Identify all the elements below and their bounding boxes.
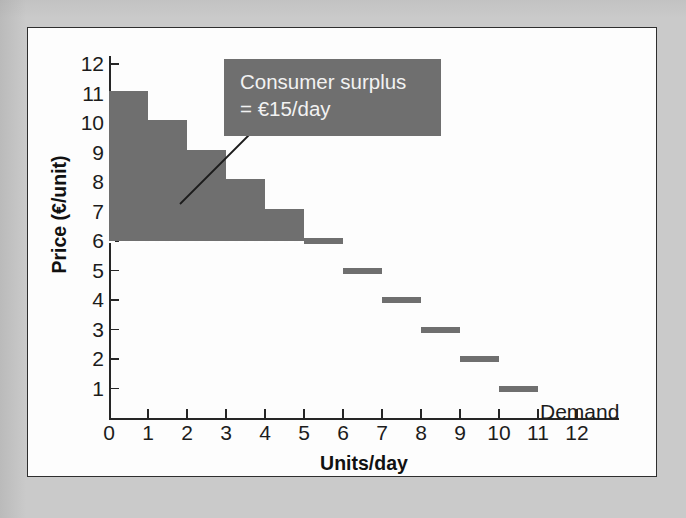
demand-step-unit-3	[187, 150, 226, 156]
x-tick-4	[264, 409, 266, 418]
x-tick-label-9: 9	[440, 422, 480, 443]
demand-step-unit-1	[109, 91, 148, 97]
x-tick-11	[537, 409, 539, 418]
x-tick-1	[147, 409, 149, 418]
y-tick-label-2: 2	[60, 348, 104, 369]
x-tick-7	[381, 409, 383, 418]
y-tick-label-3: 3	[60, 319, 104, 340]
surplus-column-unit-1	[109, 91, 148, 242]
y-tick-label-10: 10	[60, 112, 104, 133]
chart-card: Price (€/unit) Units/day 121110987654321…	[27, 27, 657, 477]
x-tick-5	[303, 409, 305, 418]
x-tick-label-10: 10	[479, 422, 519, 443]
demand-step-unit-6	[304, 238, 343, 244]
demand-step-unit-8	[382, 297, 421, 303]
x-tick-label-6: 6	[323, 422, 363, 443]
annotation-line-2: = €15/day	[240, 95, 441, 122]
plot-area: Price (€/unit) Units/day 121110987654321…	[28, 28, 658, 478]
consumer-surplus-annotation: Consumer surplus = €15/day	[224, 59, 441, 136]
x-tick-label-3: 3	[206, 422, 246, 443]
x-tick-label-0: 0	[89, 422, 129, 443]
y-tick-12	[110, 63, 119, 65]
y-tick-label-9: 9	[60, 142, 104, 163]
y-tick-2	[110, 358, 119, 360]
x-tick-6	[342, 409, 344, 418]
demand-step-unit-9	[421, 327, 460, 333]
x-tick-label-1: 1	[128, 422, 168, 443]
x-tick-8	[420, 409, 422, 418]
y-tick-3	[110, 329, 119, 331]
y-tick-4	[110, 299, 119, 301]
x-tick-label-7: 7	[362, 422, 402, 443]
y-tick-5	[110, 270, 119, 272]
x-tick-label-5: 5	[284, 422, 324, 443]
figure-root: Price (€/unit) Units/day 121110987654321…	[0, 0, 686, 518]
x-tick-label-8: 8	[401, 422, 441, 443]
demand-step-unit-5	[265, 209, 304, 215]
demand-step-unit-10	[460, 356, 499, 362]
y-tick-label-11: 11	[60, 83, 104, 104]
surplus-column-unit-3	[187, 150, 226, 242]
x-tick-label-4: 4	[245, 422, 285, 443]
demand-legend-label: Demand	[540, 400, 619, 424]
x-axis-title: Units/day	[109, 452, 619, 475]
surplus-column-unit-2	[148, 120, 187, 241]
annotation-line-1: Consumer surplus	[240, 68, 441, 95]
demand-step-unit-4	[226, 179, 265, 185]
demand-step-unit-2	[148, 120, 187, 126]
y-tick-label-6: 6	[60, 230, 104, 251]
x-tick-10	[498, 409, 500, 418]
surplus-column-unit-4	[226, 179, 265, 241]
x-tick-3	[225, 409, 227, 418]
y-tick-label-7: 7	[60, 201, 104, 222]
y-tick-label-12: 12	[60, 53, 104, 74]
y-tick-1	[110, 388, 119, 390]
y-tick-label-8: 8	[60, 171, 104, 192]
x-tick-9	[459, 409, 461, 418]
demand-step-unit-7	[343, 268, 382, 274]
market-price-line	[109, 241, 304, 243]
y-tick-label-4: 4	[60, 289, 104, 310]
x-tick-label-12: 12	[557, 422, 597, 443]
x-tick-2	[186, 409, 188, 418]
y-tick-label-1: 1	[60, 378, 104, 399]
demand-step-unit-11	[499, 386, 538, 392]
x-tick-label-2: 2	[167, 422, 207, 443]
y-tick-label-5: 5	[60, 260, 104, 281]
x-tick-label-11: 11	[518, 422, 558, 443]
